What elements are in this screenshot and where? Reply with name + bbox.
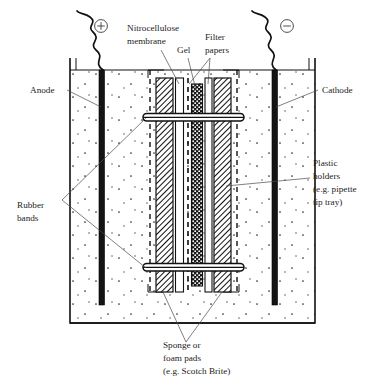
power-leads — [77, 11, 276, 70]
sponge-pad-left — [156, 78, 173, 292]
label-plastic-holders-line3: (e.g. pipette — [313, 184, 357, 194]
anode-electrode — [99, 70, 105, 305]
cathode-lead-wire — [252, 11, 276, 70]
label-plastic-holders-line1: Plastic — [313, 158, 338, 168]
negative-terminal — [281, 20, 294, 33]
filter-paper-right — [205, 78, 212, 292]
label-nitrocellulose-line1: Nitrocellulose — [127, 23, 179, 33]
positive-terminal — [95, 20, 108, 33]
rubber-band-lower — [143, 264, 244, 272]
label-sponge-pads-line2: foam pads — [163, 353, 201, 363]
cathode-electrode-bar — [272, 70, 278, 305]
label-filter-papers-line2: papers — [205, 45, 229, 55]
nitrocellulose-membrane — [176, 78, 184, 292]
label-nitrocellulose-membrane: Nitrocellulose membrane — [127, 23, 179, 46]
label-sponge-pads-line1: Sponge or — [163, 340, 201, 350]
label-nitrocellulose-line2: membrane — [127, 36, 166, 46]
label-plastic-holders-line2: holders — [313, 171, 340, 181]
label-rubber-bands-line2: bands — [17, 213, 39, 223]
label-filter-papers: Filter papers — [205, 32, 229, 55]
diagram-canvas: Anode Cathode Nitrocellulose membrane Ge… — [0, 0, 383, 382]
label-cathode: Cathode — [322, 85, 353, 95]
electroblotting-diagram: Anode Cathode Nitrocellulose membrane Ge… — [0, 0, 383, 382]
label-plastic-holders-line4: tip tray) — [313, 197, 342, 207]
label-sponge-pads-line3: (e.g. Scotch Brite) — [163, 366, 230, 376]
sponge-pad-right — [214, 78, 231, 292]
label-rubber-bands: Rubber bands — [17, 200, 44, 223]
label-anode: Anode — [30, 85, 55, 95]
blot-sandwich-stack — [156, 78, 231, 292]
label-sponge-pads: Sponge or foam pads (e.g. Scotch Brite) — [163, 340, 230, 376]
label-filter-papers-line1: Filter — [205, 32, 225, 42]
label-plastic-holders: Plastic holders (e.g. pipette tip tray) — [313, 158, 357, 207]
label-rubber-bands-line1: Rubber — [17, 200, 44, 210]
label-gel: Gel — [177, 45, 191, 55]
anode-electrode-bar — [99, 70, 105, 305]
cathode-electrode — [272, 70, 278, 305]
rubber-band-upper — [143, 114, 244, 122]
